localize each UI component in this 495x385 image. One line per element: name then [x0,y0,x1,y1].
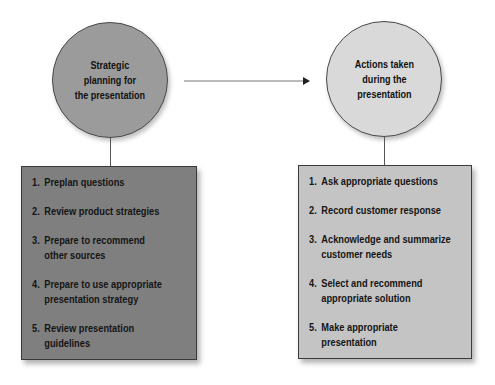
planning-stage-circle: Strategic planning for the presentation [52,22,168,138]
item-number: 2. [32,204,44,219]
list-item: 1. Ask appropriate questions [309,174,463,189]
list-item: 1.Preplan questions [32,175,186,190]
item-number: 2. [309,203,321,218]
arrow-right-icon [183,76,313,86]
list-item: 5.Review presentation guidelines [32,321,186,351]
item-number: 5. [32,321,44,351]
item-text: Review presentation guidelines [44,321,134,351]
item-number: 5. [309,320,321,350]
actions-steps-list: 1. Ask appropriate questions 2.Record cu… [309,174,484,364]
item-number: 4. [309,276,321,306]
list-item: 4.Prepare to use appropriate presentatio… [32,277,186,307]
item-text: Select and recommend appropriate solutio… [321,276,422,306]
item-text: Prepare to recommend other sources [44,233,145,263]
item-text: Record customer response [321,203,441,218]
list-item: 4.Select and recommend appropriate solut… [309,276,463,306]
item-number: 4. [32,277,44,307]
item-number: 1. [309,174,321,189]
item-text: Review product strategies [44,204,159,219]
list-item: 3.Prepare to recommend other sources [32,233,186,263]
actions-stage-circle: Actions taken during the presentation [326,21,442,137]
item-number: 3. [309,232,321,262]
planning-stage-title: Strategic planning for the presentation [75,58,145,103]
item-number: 3. [32,233,44,263]
list-item: 5.Make appropriate presentation [309,320,463,350]
planning-steps-list: 1.Preplan questions 2.Review product str… [32,175,207,365]
item-text: Make appropriate presentation [321,320,398,350]
actions-steps-box: 1. Ask appropriate questions 2.Record cu… [298,165,472,359]
right-connector-line [384,137,385,165]
actions-stage-title: Actions taken during the presentation [354,57,413,102]
item-text: Prepare to use appropriate presentation … [44,277,162,307]
planning-steps-box: 1.Preplan questions 2.Review product str… [21,166,197,360]
list-item: 2.Record customer response [309,203,463,218]
list-item: 2.Review product strategies [32,204,186,219]
item-text: Preplan questions [44,175,124,190]
list-item: 3.Acknowledge and summarize customer nee… [309,232,463,262]
item-text: Acknowledge and summarize customer needs [321,232,450,262]
item-number: 1. [32,175,44,190]
left-connector-line [110,138,111,166]
item-text: Ask appropriate questions [321,174,438,189]
